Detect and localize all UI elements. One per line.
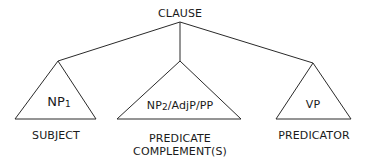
node-np1-main: NP [47,94,65,109]
label-predicate-line2: COMPLEMENT(S) [133,145,227,158]
node-vp: VP [306,98,320,111]
label-predicate-line1: PREDICATE [133,132,227,145]
node-np2-rest: /AdjP/PP [168,99,213,112]
label-predicate-complement: PREDICATE COMPLEMENT(S) [133,132,227,158]
node-np1-subscript: 1 [65,99,71,109]
branch-predicator [180,22,313,63]
node-np2-main: NP [147,99,162,112]
node-np2-adjp-pp: NP2/AdjP/PP [147,99,213,114]
branch-subject [58,22,180,61]
label-predicator: PREDICATOR [278,129,349,142]
label-subject: SUBJECT [32,129,80,142]
root-label: CLAUSE [158,7,202,20]
node-np1: NP1 [47,95,71,111]
